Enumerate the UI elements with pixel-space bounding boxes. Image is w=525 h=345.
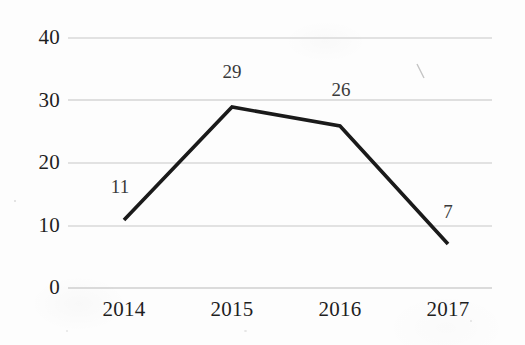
data-label-2015: 29 [209,62,255,81]
scan-artifact-mark [417,64,424,78]
y-axis-tick-0: 0 [8,277,60,298]
y-axis-tick-40: 40 [8,27,60,48]
chart-plot-area [0,0,525,345]
y-axis-tick-20: 20 [8,152,60,173]
gridlines [68,38,492,288]
data-label-2014: 11 [97,177,143,196]
x-axis-tick-2017: 2017 [408,299,488,320]
data-label-2016: 26 [318,80,364,99]
y-axis-tick-30: 30 [8,90,60,111]
y-axis-tick-10: 10 [8,215,60,236]
data-label-2017: 7 [425,202,471,221]
data-line-series-1 [124,107,448,244]
x-axis-tick-2014: 2014 [84,299,164,320]
x-axis-tick-2015: 2015 [192,299,272,320]
line-chart: 40 30 20 10 0 2014 2015 2016 2017 11 29 … [0,0,525,345]
x-axis-tick-2016: 2016 [300,299,380,320]
